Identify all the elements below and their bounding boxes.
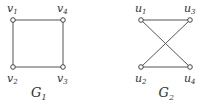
node-v4: [61, 18, 66, 23]
graph-caption-2: G2: [159, 85, 174, 102]
node-v2: [11, 65, 16, 70]
graph-2: u1u3u2u4G2: [135, 2, 196, 102]
node-v3: [61, 65, 66, 70]
graph-diagram: v1v4v2v3G1u1u3u2u4G2: [0, 0, 206, 109]
node-label-u4: u4: [184, 72, 196, 86]
node-label-v2: v2: [7, 72, 18, 86]
node-u3: [188, 18, 193, 23]
graph-1: v1v4v2v3G1: [7, 2, 68, 102]
node-u4: [188, 65, 193, 70]
node-v1: [11, 18, 16, 23]
node-u2: [139, 65, 144, 70]
node-label-v4: v4: [57, 2, 68, 16]
graph-caption-1: G1: [31, 85, 46, 102]
node-label-u3: u3: [184, 2, 196, 16]
node-label-v1: v1: [7, 2, 18, 16]
node-label-v3: v3: [57, 72, 68, 86]
node-label-u1: u1: [135, 2, 147, 16]
node-label-u2: u2: [135, 72, 147, 86]
node-u1: [139, 18, 144, 23]
